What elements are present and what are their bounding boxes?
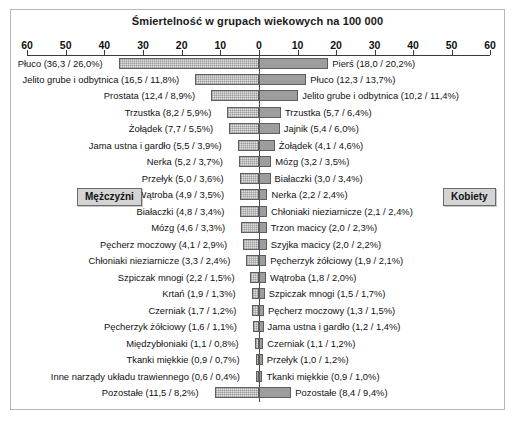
- row-label-women-1: Płuco (12,3 / 13,7%): [310, 73, 395, 86]
- row-label-men-7: Przełyk (5,0 / 3,6%): [142, 172, 224, 185]
- bar-men-9: [240, 206, 259, 217]
- bar-women-19: [259, 371, 262, 382]
- row-label-women-20: Pozostałe (8,4 / 9,4%): [295, 386, 387, 399]
- legend-women: Kobiety: [443, 188, 496, 206]
- row-label-men-0: Płuco (36,3 / 26,0%): [18, 57, 103, 70]
- chart-row: Żołądek (7,7 / 5,5%)Jajnik (5,4 / 6,0%): [11, 122, 504, 137]
- row-label-men-9: Białaczki (4,8 / 3,4%): [136, 205, 224, 218]
- bar-women-1: [259, 74, 306, 85]
- bar-women-17: [259, 338, 263, 349]
- bar-women-7: [259, 173, 271, 184]
- bar-women-0: [259, 58, 328, 69]
- chart-row: Płuco (36,3 / 26,0%)Pierś (18,0 / 20,2%): [11, 56, 504, 71]
- bar-men-13: [250, 272, 259, 283]
- chart-row: Czerniak (1,7 / 1,2%)Pęcherz moczowy (1,…: [11, 303, 504, 318]
- axis-tick-mark-left-3: [143, 50, 144, 55]
- chart-row: Przełyk (5,0 / 3,6%)Białaczki (3,0 / 3,4…: [11, 171, 504, 186]
- row-label-men-17: Międzybłoniaki (1,1 / 0,8%): [126, 337, 239, 350]
- bar-women-8: [259, 189, 267, 200]
- bar-men-2: [211, 90, 259, 101]
- chart-row: Jama ustna i gardło (5,5 / 3,9%)Żołądek …: [11, 138, 504, 153]
- row-label-men-16: Pęcherzyk żółciowy (1,6 / 1,1%): [104, 320, 237, 333]
- bar-men-11: [243, 239, 259, 250]
- row-label-women-19: Tkanki miękkie (0,9 / 1,0%): [266, 370, 379, 383]
- bar-men-15: [252, 305, 259, 316]
- axis-tick-mark-right-5: [452, 50, 453, 55]
- bar-women-15: [259, 305, 264, 316]
- chart-row: Pozostałe (11,5 / 8,2%)Pozostałe (8,4 / …: [11, 386, 504, 401]
- bar-men-4: [229, 123, 259, 134]
- row-label-women-6: Mózg (3,2 / 3,5%): [275, 155, 349, 168]
- axis-tick-mark-left-4: [182, 50, 183, 55]
- row-label-women-10: Trzon macicy (2,0 / 2,3%): [271, 221, 377, 234]
- row-label-women-3: Trzustka (5,7 / 6,4%): [285, 106, 372, 119]
- row-label-men-8: Wątroba (4,9 / 3,5%): [138, 188, 225, 201]
- row-label-men-1: Jelito grube i odbytnica (16,5 / 11,8%): [23, 73, 180, 86]
- row-label-women-9: Chłoniaki nieziarnicze (2,1 / 2,4%): [271, 205, 413, 218]
- chart-row: Inne narządy układu trawiennego (0,6 / 0…: [11, 369, 504, 384]
- bar-men-0: [119, 58, 259, 69]
- bar-men-3: [227, 107, 259, 118]
- row-label-men-11: Pęcherz moczowy (4,1 / 2,9%): [100, 238, 227, 251]
- chart-row: Nerka (5,2 / 3,7%)Mózg (3,2 / 3,5%): [11, 155, 504, 170]
- row-label-women-16: Jama ustna i gardło (1,2 / 1,4%): [268, 320, 401, 333]
- chart-title: Śmiertelność w grupach wiekowych na 100 …: [11, 15, 504, 27]
- bar-men-14: [252, 288, 259, 299]
- axis-tick-mark-right-2: [336, 50, 337, 55]
- chart-frame: Śmiertelność w grupach wiekowych na 100 …: [10, 9, 505, 410]
- bar-women-14: [259, 288, 265, 299]
- row-label-women-14: Szpiczak mnogi (1,5 / 1,7%): [269, 287, 386, 300]
- axis-tick-mark-left-1: [66, 50, 67, 55]
- bar-men-20: [215, 387, 259, 398]
- axis-tick-mark-left-2: [104, 50, 105, 55]
- bar-women-5: [259, 140, 275, 151]
- bar-women-10: [259, 222, 267, 233]
- bar-women-12: [259, 255, 266, 266]
- chart-row: Chłoniaki nieziarnicze (3,3 / 2,4%)Pęche…: [11, 254, 504, 269]
- row-label-women-17: Czerniak (1,1 / 1,2%): [267, 337, 355, 350]
- axis-tick-mark-right-3: [375, 50, 376, 55]
- row-label-men-10: Mózg (4,6 / 3,3%): [151, 221, 225, 234]
- bar-men-12: [246, 255, 259, 266]
- row-label-men-14: Krtań (1,9 / 1,3%): [162, 287, 235, 300]
- row-label-men-15: Czerniak (1,7 / 1,2%): [148, 304, 236, 317]
- bar-women-9: [259, 206, 267, 217]
- row-label-men-6: Nerka (5,2 / 3,7%): [147, 155, 223, 168]
- row-label-women-2: Jelito grube i odbytnica (10,2 / 11,4%): [302, 89, 459, 102]
- bar-women-13: [259, 272, 266, 283]
- bar-women-4: [259, 123, 280, 134]
- row-label-women-5: Żołądek (4,1 / 4,6%): [279, 139, 363, 152]
- bar-men-6: [239, 156, 259, 167]
- bar-women-11: [259, 239, 267, 250]
- row-label-men-5: Jama ustna i gardło (5,5 / 3,9%): [89, 139, 222, 152]
- chart-row: Mózg (4,6 / 3,3%)Trzon macicy (2,0 / 2,3…: [11, 221, 504, 236]
- row-label-men-18: Tkanki miękkie (0,9 / 0,7%): [126, 353, 239, 366]
- row-label-men-20: Pozostałe (11,5 / 8,2%): [102, 386, 199, 399]
- chart-row: Szpiczak mnogi (2,2 / 1,5%)Wątroba (1,8 …: [11, 270, 504, 285]
- chart-rows: Płuco (36,3 / 26,0%)Pierś (18,0 / 20,2%)…: [11, 56, 504, 402]
- axis-tick-mark-right-1: [298, 50, 299, 55]
- bar-men-1: [195, 74, 259, 85]
- bar-women-20: [259, 387, 291, 398]
- row-label-women-4: Jajnik (5,4 / 6,0%): [284, 122, 359, 135]
- chart-row: Międzybłoniaki (1,1 / 0,8%)Czerniak (1,1…: [11, 336, 504, 351]
- row-label-women-18: Przełyk (1,0 / 1,2%): [267, 353, 349, 366]
- legend-men: Mężczyźni: [77, 188, 142, 206]
- bar-women-3: [259, 107, 281, 118]
- row-label-men-13: Szpiczak mnogi (2,2 / 1,5%): [118, 271, 235, 284]
- axis-tick-mark-right-6: [490, 50, 491, 55]
- bar-men-10: [241, 222, 259, 233]
- bar-women-16: [259, 321, 264, 332]
- row-label-men-4: Żołądek (7,7 / 5,5%): [129, 122, 213, 135]
- row-label-women-7: Białaczki (3,0 / 3,4%): [275, 172, 363, 185]
- row-label-men-2: Prostata (12,4 / 8,9%): [104, 89, 195, 102]
- bar-women-18: [259, 354, 263, 365]
- chart-row: Pęcherz moczowy (4,1 / 2,9%)Szyjka macic…: [11, 237, 504, 252]
- chart-row: Białaczki (4,8 / 3,4%)Chłoniaki nieziarn…: [11, 204, 504, 219]
- row-label-men-19: Inne narządy układu trawiennego (0,6 / 0…: [51, 370, 240, 383]
- row-label-women-8: Nerka (2,2 / 2,4%): [271, 188, 347, 201]
- chart-row: Tkanki miękkie (0,9 / 0,7%)Przełyk (1,0 …: [11, 353, 504, 368]
- chart-row: Pęcherzyk żółciowy (1,6 / 1,1%)Jama ustn…: [11, 320, 504, 335]
- chart-row: Trzustka (8,2 / 5,9%)Trzustka (5,7 / 6,4…: [11, 105, 504, 120]
- axis-tick-mark-right-4: [413, 50, 414, 55]
